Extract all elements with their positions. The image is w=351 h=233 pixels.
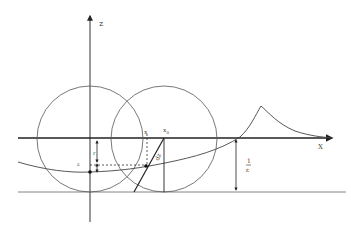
epsilon-numerator: 1 [247, 157, 251, 164]
r-label: r [93, 150, 96, 156]
diagram-canvas: z X r z dz x x0 1 ε [0, 0, 351, 233]
z-label: z [77, 161, 80, 167]
x0-label: x0 [163, 126, 169, 135]
z-axis-label: z [99, 19, 103, 28]
x-axis-label: X [318, 143, 323, 151]
curve-point-z [88, 170, 92, 174]
epsilon-denominator: ε [246, 166, 249, 173]
profile-curve [18, 106, 332, 172]
x-label: x [144, 128, 148, 135]
dz-label: dz [153, 152, 162, 161]
slant-point [144, 164, 148, 168]
